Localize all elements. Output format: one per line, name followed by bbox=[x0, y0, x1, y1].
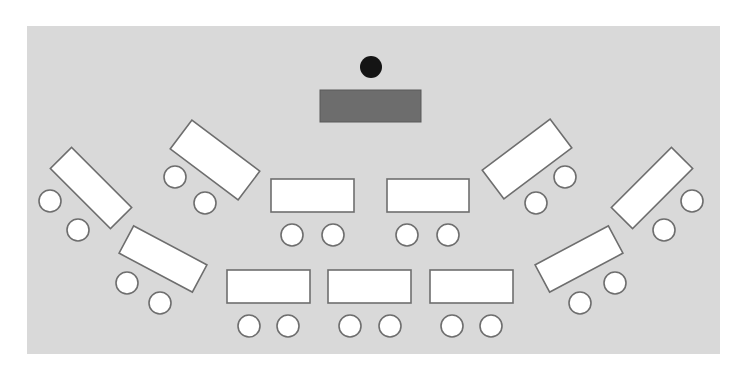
instructor-icon bbox=[360, 56, 382, 78]
chair-bottom-right-1 bbox=[441, 315, 463, 337]
table-center-right bbox=[387, 179, 469, 212]
chair-far-right-2 bbox=[653, 219, 675, 241]
chair-center-left-1 bbox=[281, 224, 303, 246]
chair-right-upper-2 bbox=[525, 192, 547, 214]
chair-right-upper-1 bbox=[554, 166, 576, 188]
chair-left-upper-1 bbox=[164, 166, 186, 188]
chair-bottom-right-2 bbox=[480, 315, 502, 337]
chair-right-lower-1 bbox=[604, 272, 626, 294]
classroom-layout-diagram bbox=[0, 0, 744, 377]
table-center-left bbox=[271, 179, 354, 212]
chair-left-upper-2 bbox=[194, 192, 216, 214]
chair-far-left-1 bbox=[39, 190, 61, 212]
chair-far-left-2 bbox=[67, 219, 89, 241]
chair-left-lower-1 bbox=[116, 272, 138, 294]
chair-bottom-left-2 bbox=[277, 315, 299, 337]
front-desk bbox=[320, 90, 421, 122]
chair-bottom-center-1 bbox=[339, 315, 361, 337]
table-bottom-right bbox=[430, 270, 513, 303]
chair-center-left-2 bbox=[322, 224, 344, 246]
chair-bottom-center-2 bbox=[379, 315, 401, 337]
table-bottom-center bbox=[328, 270, 411, 303]
chair-center-right-1 bbox=[396, 224, 418, 246]
chair-right-lower-2 bbox=[569, 292, 591, 314]
chair-center-right-2 bbox=[437, 224, 459, 246]
chair-left-lower-2 bbox=[149, 292, 171, 314]
chair-far-right-1 bbox=[681, 190, 703, 212]
chair-bottom-left-1 bbox=[238, 315, 260, 337]
table-bottom-left bbox=[227, 270, 310, 303]
